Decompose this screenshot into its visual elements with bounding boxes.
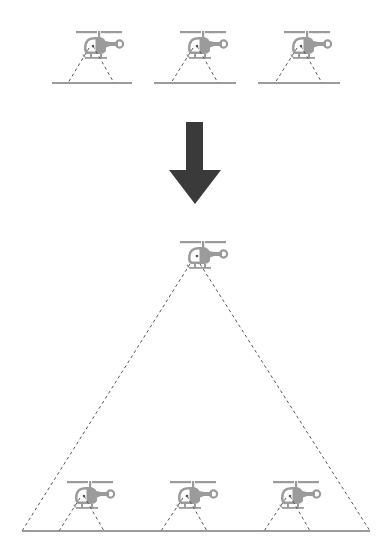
helicopter-icon (67, 481, 114, 509)
helicopter-icon (284, 31, 331, 59)
bottom-panel (22, 241, 370, 531)
helicopter-icon (180, 31, 227, 59)
down-arrow-icon (169, 122, 221, 204)
helicopter-icon (76, 31, 123, 59)
diagram-canvas (0, 0, 392, 560)
helicopter-icon (170, 481, 217, 509)
helicopter-icon (180, 241, 227, 269)
helicopter-icon (273, 481, 320, 509)
top-panel (52, 31, 340, 83)
